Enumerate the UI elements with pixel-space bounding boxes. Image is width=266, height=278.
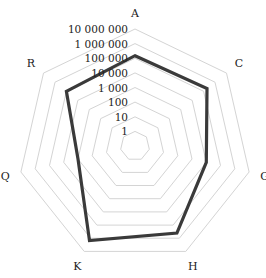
grid-ring: [107, 117, 164, 173]
axis-label-q: Q: [1, 170, 10, 183]
tick-label: 1 000 000: [75, 38, 128, 50]
grid-rings: [21, 29, 249, 251]
tick-label: 100 000: [85, 52, 128, 64]
axis-label-a: A: [130, 7, 140, 20]
tick-label: 10: [115, 111, 128, 123]
axis-label-h: H: [188, 260, 198, 273]
axis-label-k: K: [73, 260, 82, 273]
axis-label-r: R: [27, 57, 36, 70]
grid-ring: [64, 73, 207, 212]
tick-label: 100: [108, 96, 128, 108]
radar-chart: 1101001 00010 000100 0001 000 00010 000 …: [0, 0, 266, 278]
tick-label: 10 000 000: [68, 23, 128, 35]
radar-chart-canvas: 1101001 00010 000100 0001 000 00010 000 …: [0, 0, 266, 278]
tick-label: 1: [121, 125, 128, 137]
tick-label: 10 000: [91, 67, 128, 79]
grid-ring: [92, 102, 178, 185]
tick-label: 1 000: [98, 82, 128, 94]
axis-labels: ACGHKQR: [1, 7, 266, 273]
axis-label-g: G: [260, 170, 266, 183]
axis-label-c: C: [235, 57, 243, 70]
